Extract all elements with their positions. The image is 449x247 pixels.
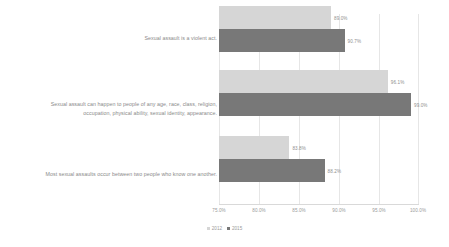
legend-swatch-icon [207, 227, 210, 230]
bar-row: 88.2% [0, 159, 449, 182]
x-tick-label: 90.0% [332, 208, 346, 213]
bar-group: 89.0% 90.7% [0, 6, 449, 58]
x-axis-line [219, 204, 419, 205]
bar-group: 83.8% 88.2% [0, 136, 449, 188]
bar-chart: Sexual assault is a violent act. Sexual … [0, 0, 449, 247]
bar-2015[interactable] [219, 93, 411, 116]
bar-row: 90.7% [0, 29, 449, 52]
bar-value-label: 90.7% [348, 38, 362, 43]
chart-legend: 2012 2015 [0, 226, 449, 231]
legend-label: 2012 [212, 226, 222, 231]
bar-group: 96.1% 99.0% [0, 70, 449, 122]
x-tick-label: 80.0% [252, 208, 266, 213]
bar-row: 89.0% [0, 6, 449, 29]
bar-2012[interactable] [219, 70, 388, 93]
bar-value-label: 88.2% [328, 168, 342, 173]
bar-value-label: 83.8% [292, 145, 306, 150]
bar-row: 83.8% [0, 136, 449, 159]
bar-value-label: 89.0% [334, 15, 348, 20]
bar-2012[interactable] [219, 6, 331, 29]
bar-value-label: 99.0% [414, 102, 428, 107]
bar-2015[interactable] [219, 29, 345, 52]
x-tick-label: 95.0% [372, 208, 386, 213]
legend-item-2015[interactable]: 2015 [227, 226, 242, 231]
bar-row: 96.1% [0, 70, 449, 93]
bar-value-label: 96.1% [391, 79, 405, 84]
bar-row: 99.0% [0, 93, 449, 116]
legend-item-2012[interactable]: 2012 [207, 226, 222, 231]
x-tick-label: 100.0% [410, 208, 426, 213]
bar-2015[interactable] [219, 159, 325, 182]
x-tick-label: 75.0% [212, 208, 226, 213]
legend-swatch-icon [227, 227, 230, 230]
x-tick-label: 85.0% [292, 208, 306, 213]
legend-label: 2015 [232, 226, 242, 231]
bar-2012[interactable] [219, 136, 289, 159]
